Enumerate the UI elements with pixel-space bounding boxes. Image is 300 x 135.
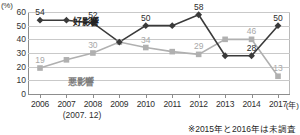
data-point: [143, 45, 149, 51]
line-bad-influence: [40, 39, 278, 76]
data-point-label: 54: [35, 8, 44, 17]
x-tick-mark: [199, 94, 200, 98]
y-tick-30: 30: [17, 49, 26, 58]
y-tick-60: 60: [17, 8, 26, 17]
x-tick-label: 2012: [190, 99, 208, 109]
data-point-label: 50: [273, 13, 282, 22]
x-tick-label: 2006: [31, 99, 49, 109]
x-tick-label: 2013: [216, 99, 234, 109]
data-point: [275, 73, 281, 79]
data-point-label: 46: [247, 27, 256, 36]
x-tick-label: 2017: [269, 99, 287, 109]
data-point-label: 58: [194, 2, 203, 11]
x-tick-label: 2014: [242, 99, 260, 109]
series-label-bad: 悪影響: [68, 75, 94, 88]
x-tick-mark: [225, 94, 226, 98]
y-tick-20: 20: [17, 63, 26, 72]
data-point-label: 34: [141, 35, 150, 44]
data-point-label: 30: [88, 41, 97, 50]
x-tick-label: 2007: [57, 99, 75, 109]
y-tick-0: 0: [21, 90, 26, 99]
chart-footnote: ※2015年と2016年は未調査: [188, 122, 296, 134]
x-tick-mark: [278, 94, 279, 98]
x-tick-label: 2011: [163, 99, 180, 109]
data-point: [64, 57, 70, 63]
x-tick-mark: [93, 94, 94, 98]
x-tick-mark: [66, 94, 67, 98]
data-point: [196, 52, 202, 58]
data-point: [169, 22, 176, 29]
data-point-label: 28: [247, 43, 256, 52]
data-point: [90, 50, 96, 56]
y-tick-10: 10: [17, 76, 26, 85]
data-point-label: 13: [273, 64, 282, 73]
y-tick-50: 50: [17, 22, 26, 31]
x-tick-label: 2010: [137, 99, 155, 109]
x-tick-mark: [119, 94, 120, 98]
x-tick-mark: [40, 94, 41, 98]
x-axis-subnote: (2007. 12): [63, 110, 102, 120]
x-axis-unit-label: (年): [286, 99, 299, 110]
x-tick-label: 2009: [110, 99, 128, 109]
data-point-label: 52: [88, 10, 97, 19]
data-point: [37, 65, 43, 71]
x-tick-mark: [146, 94, 147, 98]
chart-container: (%) 0 10 20 30 40 50 60 好影響 悪影響 19303429…: [0, 0, 300, 135]
data-point-label: 19: [35, 56, 44, 65]
y-tick-40: 40: [17, 35, 26, 44]
y-axis-unit-label: (%): [1, 1, 13, 10]
data-point: [63, 17, 70, 24]
data-point: [37, 17, 44, 24]
data-point-label: 29: [194, 42, 203, 51]
plot-area: 好影響 悪影響 193034294613545250582850: [28, 12, 290, 94]
y-axis-tick-labels: 0 10 20 30 40 50 60: [0, 12, 28, 94]
x-tick-mark: [172, 94, 173, 98]
x-tick-mark: [252, 94, 253, 98]
data-point-label: 50: [141, 13, 150, 22]
x-tick-label: 2008: [84, 99, 102, 109]
data-point: [169, 49, 175, 55]
data-point: [222, 37, 228, 43]
